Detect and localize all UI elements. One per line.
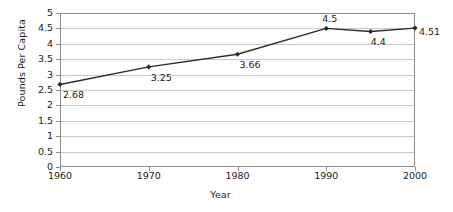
data-point-label: 4.4 — [371, 37, 386, 47]
y-tick-label: 1.5 — [3, 116, 53, 126]
data-point-label: 4.5 — [322, 14, 337, 24]
x-tick-label: 1960 — [30, 170, 90, 181]
x-axis-title: Year — [0, 189, 453, 200]
data-point-label: 4.51 — [419, 27, 440, 37]
line-chart: Pounds Per Capita 00.511.522.533.544.55 … — [0, 0, 453, 212]
x-tick-mark — [149, 167, 150, 171]
gridline — [61, 75, 414, 76]
x-tick-label: 1970 — [119, 170, 179, 181]
y-tick-label: 3.5 — [3, 54, 53, 64]
data-point-label: 2.68 — [63, 90, 84, 100]
gridline — [61, 90, 414, 91]
gridline — [61, 44, 414, 45]
x-tick-mark — [60, 167, 61, 171]
gridline — [61, 105, 414, 106]
y-tick-label: 0.5 — [3, 147, 53, 157]
y-tick-label: 4.5 — [3, 23, 53, 33]
y-tick-label: 3 — [3, 70, 53, 80]
gridline — [61, 136, 414, 137]
y-tick-label: 4 — [3, 39, 53, 49]
gridline — [61, 152, 414, 153]
y-tick-label: 5 — [3, 8, 53, 18]
x-tick-label: 1980 — [208, 170, 268, 181]
x-tick-mark — [238, 167, 239, 171]
plot-area — [60, 13, 415, 167]
gridline — [61, 59, 414, 60]
gridline — [61, 121, 414, 122]
x-tick-label: 1990 — [296, 170, 356, 181]
y-tick-label: 1 — [3, 131, 53, 141]
x-tick-label: 2000 — [385, 170, 445, 181]
x-axis-title-text: Year — [210, 189, 231, 200]
data-point-label: 3.25 — [151, 73, 172, 83]
x-tick-mark — [415, 167, 416, 171]
gridline — [61, 28, 414, 29]
x-tick-mark — [326, 167, 327, 171]
data-point-label: 3.66 — [240, 60, 261, 70]
y-tick-label: 2.5 — [3, 85, 53, 95]
y-tick-label: 2 — [3, 100, 53, 110]
